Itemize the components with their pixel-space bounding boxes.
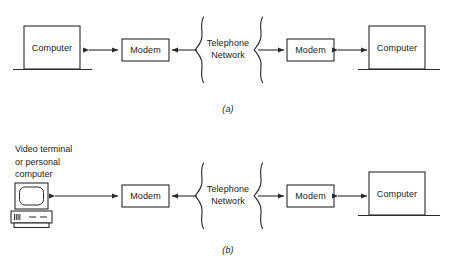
left-modem-label-b: Modem [130, 191, 161, 202]
network-label-line2-b: Network [211, 196, 245, 207]
video-terminal-icon [11, 183, 52, 228]
network-label-line2: Network [211, 50, 245, 61]
network-label-line1: Telephone [207, 38, 249, 49]
right-computer-label: Computer [377, 43, 417, 54]
left-computer-label: Computer [32, 43, 72, 54]
video-terminal-label: Video terminal or personal computer [15, 143, 72, 181]
panel-a-caption: (a) [222, 104, 233, 115]
network-label-line1-b: Telephone [207, 184, 249, 195]
panel-b-caption: (b) [222, 245, 233, 256]
left-modem-label: Modem [130, 45, 161, 56]
right-modem-label: Modem [295, 45, 326, 56]
modem-network-figure: Computer Modem Telephone Network Modem C… [0, 0, 456, 265]
right-modem-label-b: Modem [295, 191, 326, 202]
right-computer-label-b: Computer [377, 189, 417, 200]
